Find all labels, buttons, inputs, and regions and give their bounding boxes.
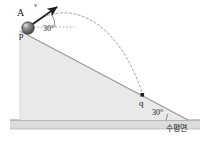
launch-point-label-p: p [19, 31, 24, 40]
incline-angle-label: 30° [152, 109, 163, 117]
horizontal-plane-label: 수평면 [166, 125, 186, 133]
landing-point-marker-q [141, 93, 145, 97]
launch-angle-label: 30° [43, 25, 54, 33]
inclined-plane-wedge [20, 31, 188, 120]
diagram-canvas [0, 0, 205, 142]
landing-point-label-q: q [139, 99, 144, 108]
physics-diagram-figure: A v p 30° q 30° 수평면 [0, 0, 205, 142]
object-label-A: A [17, 8, 24, 18]
velocity-label: v [34, 2, 37, 9]
